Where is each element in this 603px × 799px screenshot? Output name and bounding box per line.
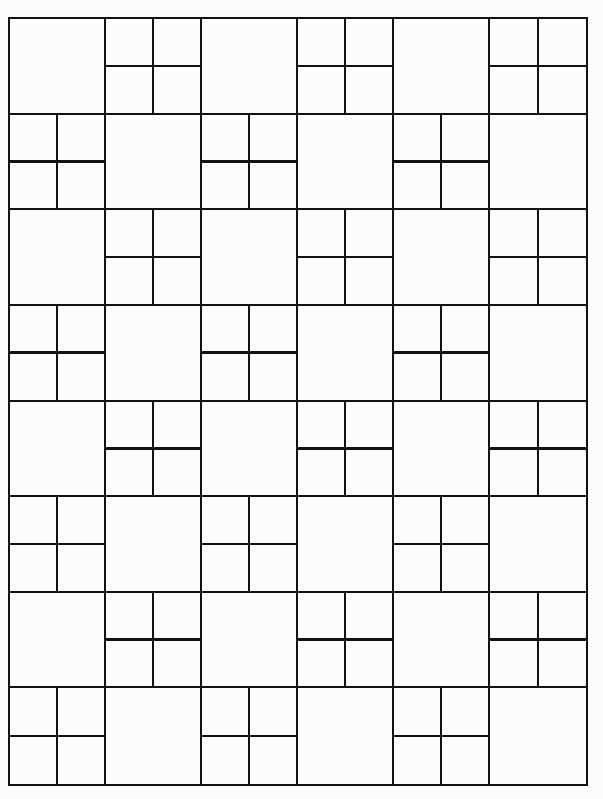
plain-square bbox=[10, 19, 106, 115]
quartered-square bbox=[298, 402, 394, 498]
quartered-square bbox=[10, 497, 106, 593]
quartered-square bbox=[106, 19, 202, 115]
plain-square bbox=[202, 593, 298, 689]
quartered-square bbox=[394, 688, 490, 784]
quartered-square bbox=[10, 306, 106, 402]
quartered-square bbox=[298, 593, 394, 689]
quartered-square bbox=[202, 688, 298, 784]
quartered-square bbox=[202, 115, 298, 211]
quartered-square bbox=[106, 593, 202, 689]
quartered-square bbox=[202, 497, 298, 593]
plain-square bbox=[490, 115, 586, 211]
plain-square bbox=[298, 306, 394, 402]
plain-square bbox=[202, 19, 298, 115]
plain-square bbox=[10, 593, 106, 689]
quartered-square bbox=[106, 402, 202, 498]
plain-square bbox=[10, 210, 106, 306]
square-grid-diagram bbox=[8, 17, 588, 786]
plain-square bbox=[490, 306, 586, 402]
quartered-square bbox=[394, 306, 490, 402]
plain-square bbox=[490, 497, 586, 593]
plain-square bbox=[10, 402, 106, 498]
plain-square bbox=[106, 306, 202, 402]
plain-square bbox=[490, 688, 586, 784]
quartered-square bbox=[490, 402, 586, 498]
quartered-square bbox=[298, 19, 394, 115]
plain-square bbox=[298, 688, 394, 784]
quartered-square bbox=[298, 210, 394, 306]
plain-square bbox=[202, 210, 298, 306]
plain-square bbox=[394, 19, 490, 115]
quartered-square bbox=[202, 306, 298, 402]
quartered-square bbox=[10, 115, 106, 211]
quartered-square bbox=[394, 115, 490, 211]
plain-square bbox=[394, 210, 490, 306]
quartered-square bbox=[106, 210, 202, 306]
quartered-square bbox=[10, 688, 106, 784]
plain-square bbox=[394, 402, 490, 498]
quartered-square bbox=[394, 497, 490, 593]
page bbox=[0, 0, 603, 799]
plain-square bbox=[298, 115, 394, 211]
quartered-square bbox=[490, 19, 586, 115]
plain-square bbox=[202, 402, 298, 498]
plain-square bbox=[394, 593, 490, 689]
plain-square bbox=[106, 688, 202, 784]
quartered-square bbox=[490, 210, 586, 306]
plain-square bbox=[298, 497, 394, 593]
quartered-square bbox=[490, 593, 586, 689]
diagram-title bbox=[0, 0, 1, 1]
plain-square bbox=[106, 497, 202, 593]
plain-square bbox=[106, 115, 202, 211]
